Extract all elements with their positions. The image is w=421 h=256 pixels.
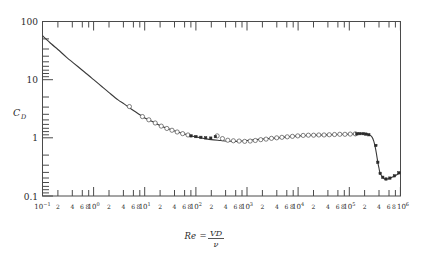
data-marker-filled bbox=[368, 134, 370, 136]
data-marker-open bbox=[290, 134, 294, 138]
x-minor-label: 4 bbox=[275, 203, 279, 210]
data-marker-filled bbox=[200, 136, 202, 138]
data-marker-open bbox=[348, 132, 352, 136]
x-minor-label: 8 bbox=[188, 203, 192, 210]
data-marker-filled bbox=[365, 133, 367, 135]
x-decade-label: 103 bbox=[241, 201, 253, 211]
data-marker-open bbox=[312, 133, 316, 137]
x-minor-label: 4 bbox=[224, 203, 228, 210]
plot-frame bbox=[43, 22, 401, 197]
x-minor-label: 6 bbox=[233, 203, 237, 210]
data-marker-filled bbox=[393, 175, 395, 177]
data-marker-open bbox=[140, 114, 144, 118]
data-marker-open bbox=[343, 132, 347, 136]
data-marker-filled bbox=[214, 135, 216, 137]
x-minor-label: 6 bbox=[285, 203, 289, 210]
x-minor-label: 8 bbox=[85, 203, 89, 210]
data-marker-filled bbox=[382, 176, 384, 178]
data-marker-filled bbox=[389, 177, 391, 179]
data-marker-open bbox=[153, 121, 157, 125]
x-decade-label: 101 bbox=[139, 201, 151, 211]
drag-coefficient-figure: 100 10 1 0.1 C D bbox=[0, 0, 421, 256]
data-marker-filled bbox=[190, 135, 192, 137]
data-marker-open bbox=[220, 137, 224, 141]
data-marker-filled bbox=[359, 132, 361, 134]
x-minor-label: 8 bbox=[136, 203, 140, 210]
x-minor-label: 2 bbox=[260, 203, 264, 210]
x-minor-label: 8 bbox=[341, 203, 345, 210]
data-marker-open bbox=[231, 139, 235, 143]
x-caption-re: Re bbox=[184, 231, 196, 241]
x-minor-label: 2 bbox=[209, 203, 213, 210]
data-marker-open bbox=[332, 132, 336, 136]
y-tick-label: 10 bbox=[27, 75, 39, 85]
y-axis-title-text: C bbox=[13, 107, 21, 118]
x-minor-label: 8 bbox=[392, 203, 396, 210]
x-minor-label: 4 bbox=[121, 203, 125, 210]
data-marker-open bbox=[306, 133, 310, 137]
data-marker-filled bbox=[195, 135, 197, 137]
x-minor-label: 4 bbox=[377, 203, 381, 210]
x-minor-label: 2 bbox=[107, 203, 111, 210]
x-decade-label: 102 bbox=[190, 201, 202, 211]
data-marker-open bbox=[301, 133, 305, 137]
data-marker-open bbox=[285, 135, 289, 139]
data-marker-open bbox=[127, 104, 131, 108]
data-marker-open bbox=[327, 133, 331, 137]
data-marker-filled bbox=[377, 161, 379, 163]
data-marker-filled bbox=[362, 132, 364, 134]
data-marker-open bbox=[248, 139, 252, 143]
data-marker-open bbox=[243, 139, 247, 143]
data-marker-filled bbox=[398, 172, 400, 174]
x-minor-label: 6 bbox=[387, 203, 391, 210]
frame-rect bbox=[43, 22, 401, 197]
y-tick-label: 0.1 bbox=[24, 192, 38, 202]
x-minor-label: 4 bbox=[173, 203, 177, 210]
drag-curve bbox=[43, 36, 401, 180]
data-marker-filled bbox=[385, 178, 387, 180]
data-marker-open bbox=[253, 138, 257, 142]
x-axis-caption: Re = VD ν bbox=[184, 229, 224, 249]
x-minor-label: 6 bbox=[131, 203, 135, 210]
x-minor-label: 2 bbox=[363, 203, 367, 210]
x-minor-label: 8 bbox=[239, 203, 243, 210]
x-caption-denominator: ν bbox=[214, 240, 219, 249]
data-marker-open bbox=[165, 126, 169, 130]
x-minor-label: 4 bbox=[70, 203, 74, 210]
x-minor-label: 2 bbox=[56, 203, 60, 210]
data-series-group bbox=[43, 36, 401, 181]
y-axis-ticks bbox=[43, 22, 54, 197]
data-marker-open bbox=[237, 139, 241, 143]
y-tick-label: 100 bbox=[21, 17, 38, 27]
data-marker-filled bbox=[375, 144, 377, 146]
x-decade-label: 10−1 bbox=[34, 201, 50, 211]
y-axis-title: C D bbox=[13, 107, 27, 121]
data-marker-open bbox=[170, 128, 174, 132]
data-marker-open bbox=[296, 134, 300, 138]
x-decade-label: 100 bbox=[88, 201, 100, 211]
data-marker-open bbox=[186, 133, 190, 137]
data-marker-filled bbox=[204, 137, 206, 139]
x-decade-label: 106 bbox=[397, 201, 409, 211]
data-marker-open bbox=[264, 137, 268, 141]
x-minor-label: 6 bbox=[80, 203, 84, 210]
x-minor-label: 6 bbox=[182, 203, 186, 210]
data-marker-open bbox=[322, 133, 326, 137]
data-marker-open bbox=[259, 138, 263, 142]
x-decade-label: 105 bbox=[343, 201, 355, 211]
data-marker-open bbox=[226, 138, 230, 142]
data-marker-open bbox=[269, 136, 273, 140]
x-minor-label: 2 bbox=[312, 203, 316, 210]
data-marker-open bbox=[159, 124, 163, 128]
data-marker-open bbox=[275, 136, 279, 140]
x-axis-labels: 10−1 100 101 102 103 104 105 106 2 4 6 8… bbox=[34, 201, 409, 211]
data-marker-open bbox=[317, 133, 321, 137]
x-minor-label: 8 bbox=[290, 203, 294, 210]
data-marker-open bbox=[181, 132, 185, 136]
data-marker-open bbox=[147, 118, 151, 122]
x-minor-label: 4 bbox=[326, 203, 330, 210]
x-decade-label: 104 bbox=[292, 201, 304, 211]
data-marker-open bbox=[280, 135, 284, 139]
x-caption-numerator: VD bbox=[210, 229, 223, 238]
data-marker-filled bbox=[210, 137, 212, 139]
